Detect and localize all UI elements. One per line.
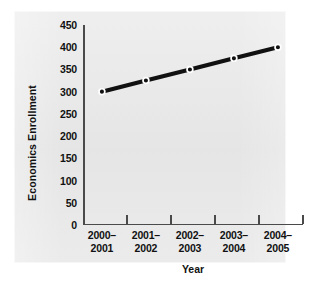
x-tick-label-line: 2003– [220,229,248,242]
data-point [231,55,237,61]
x-tick-label-line: 2001 [88,242,116,255]
y-tick-label: 300 [60,86,77,98]
x-tick-label-line: 2002– [176,229,204,242]
x-tick-label-line: 2004– [264,229,292,242]
y-tick-label: 0 [71,219,77,231]
data-point [275,44,281,50]
y-tick-label: 150 [60,152,77,164]
x-tick-label: 2002–2003 [176,229,204,255]
y-tick-label: 200 [60,130,77,142]
plot-area: 050100150200250300350400450 2000–2001200… [83,25,303,225]
x-tick-label-line: 2002 [132,242,160,255]
data-point [143,78,149,84]
x-tick-label-line: 2000– [88,229,116,242]
y-tick-label: 350 [60,63,77,75]
x-tick-label-line: 2004 [220,242,248,255]
x-tick-label-line: 2005 [264,242,292,255]
chart-figure: Economics Enrollment Year 05010015020025… [0,0,313,290]
chart-panel: Economics Enrollment Year 05010015020025… [14,11,286,263]
y-tick-label: 250 [60,108,77,120]
data-series-layer [83,25,303,225]
x-tick-label-line: 2003 [176,242,204,255]
x-tick-label: 2000–2001 [88,229,116,255]
y-tick-label: 450 [60,19,77,31]
data-point [187,67,193,73]
data-point [99,89,105,95]
y-tick-label: 50 [66,197,77,209]
x-tick-label: 2003–2004 [220,229,248,255]
x-tick-label: 2004–2005 [264,229,292,255]
y-tick-label: 400 [60,41,77,53]
y-tick-label: 100 [60,175,77,187]
x-tick-label: 2001–2002 [132,229,160,255]
x-tick-label-line: 2001– [132,229,160,242]
x-axis-tick-labels: 2000–20012001–20022002–20032003–20042004… [83,229,303,269]
y-axis-title: Economics Enrollment [26,85,38,201]
